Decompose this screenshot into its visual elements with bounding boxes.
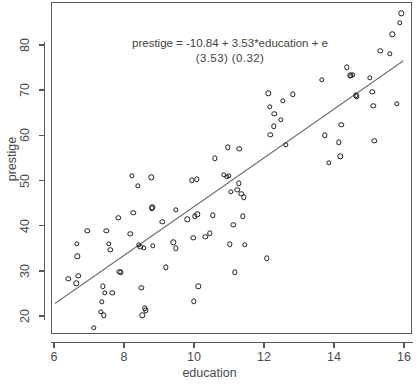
data-point [377, 48, 382, 53]
data-point [387, 51, 392, 56]
scatter-plot-figure: 6810121416 20304050607080 education pres… [0, 0, 419, 386]
data-point [106, 241, 111, 246]
data-point [210, 213, 215, 218]
data-point [102, 290, 107, 295]
data-point [227, 242, 232, 247]
data-point [278, 117, 283, 122]
y-tick-mark [39, 89, 45, 90]
data-point [232, 270, 237, 275]
data-point [195, 284, 200, 289]
data-point [100, 284, 105, 289]
data-point [290, 92, 295, 97]
data-point [191, 298, 196, 303]
data-point [280, 98, 285, 103]
y-tick-label: 70 [18, 83, 32, 97]
data-point [139, 285, 144, 290]
y-tick-label: 30 [18, 264, 32, 278]
data-point [141, 245, 146, 250]
data-point [74, 280, 79, 285]
data-point [271, 124, 276, 129]
data-point [272, 111, 277, 116]
data-point [240, 214, 245, 219]
y-tick-label: 50 [18, 174, 32, 188]
data-point [268, 132, 273, 137]
data-point [241, 195, 246, 200]
data-point [370, 89, 375, 94]
data-point [390, 32, 395, 37]
y-tick-mark [39, 270, 45, 271]
data-point [354, 93, 359, 98]
data-point [212, 156, 217, 161]
data-point [344, 65, 349, 70]
data-point [84, 228, 89, 233]
data-point [194, 177, 199, 182]
data-point [394, 101, 399, 106]
data-point [66, 276, 71, 281]
data-point [150, 205, 155, 210]
y-tick-label: 80 [18, 38, 32, 52]
data-point [173, 207, 178, 212]
x-tick-mark [263, 342, 264, 348]
data-point [118, 270, 123, 275]
data-point [397, 20, 402, 25]
data-point [226, 173, 231, 178]
data-point [131, 210, 136, 215]
data-point [322, 133, 327, 138]
x-tick-label: 12 [257, 350, 271, 364]
x-tick-mark [403, 342, 404, 348]
x-tick-label: 14 [327, 350, 341, 364]
y-tick-label: 20 [18, 309, 32, 323]
data-point [398, 11, 403, 16]
y-tick-mark [39, 44, 45, 45]
data-point [225, 144, 230, 149]
data-point [264, 256, 269, 261]
data-point [163, 265, 168, 270]
data-point [237, 146, 242, 151]
data-point [171, 240, 176, 245]
data-point [267, 104, 272, 109]
x-tick-label: 6 [51, 350, 58, 364]
data-point [371, 138, 376, 143]
data-point [101, 312, 106, 317]
data-point [173, 246, 178, 251]
x-tick-mark [193, 342, 194, 348]
data-point [116, 215, 121, 220]
y-tick-mark [39, 135, 45, 136]
x-tick-mark [123, 342, 124, 348]
data-point [150, 243, 155, 248]
y-tick-mark [39, 225, 45, 226]
data-point [104, 228, 109, 233]
x-tick-mark [333, 342, 334, 348]
data-point [99, 299, 104, 304]
y-tick-label: 40 [18, 219, 32, 233]
data-point [230, 222, 235, 227]
x-tick-label: 10 [187, 350, 201, 364]
data-point [326, 160, 331, 165]
x-axis-line [51, 342, 413, 343]
x-tick-label: 16 [397, 350, 411, 364]
data-point [75, 254, 80, 259]
data-point [283, 142, 288, 147]
data-point [76, 273, 81, 278]
y-axis-title: prestige [5, 119, 19, 199]
data-point [149, 175, 154, 180]
data-point [350, 72, 355, 77]
x-tick-label: 8 [121, 350, 128, 364]
data-point [143, 308, 148, 313]
data-point [74, 241, 79, 246]
data-point [336, 140, 341, 145]
y-tick-mark [39, 180, 45, 181]
data-point [242, 242, 247, 247]
data-point [228, 189, 233, 194]
data-point [129, 173, 134, 178]
data-point [236, 181, 241, 186]
data-point [160, 219, 165, 224]
data-point [108, 247, 113, 252]
data-point [185, 217, 190, 222]
data-point [265, 91, 270, 96]
data-point [338, 154, 343, 159]
data-point [370, 103, 375, 108]
y-tick-mark [39, 315, 45, 316]
data-point [367, 75, 372, 80]
x-axis-title: education [0, 366, 419, 380]
